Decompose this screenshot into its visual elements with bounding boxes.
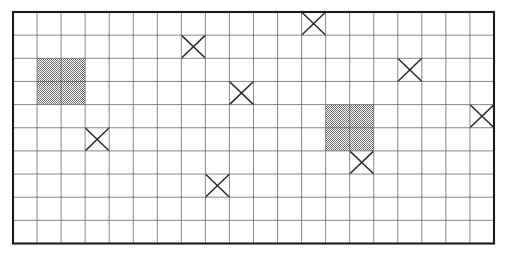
grid-lines-layer [13,12,494,244]
grid-diagram [0,0,509,257]
grid-canvas [0,0,509,257]
figure-background [0,0,509,257]
